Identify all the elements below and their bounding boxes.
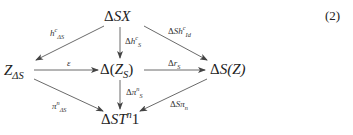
label-left-center: ε xyxy=(67,59,71,68)
node-center: Δ(ZS) xyxy=(100,62,133,77)
node-right: ΔS(Z) xyxy=(210,62,246,77)
label-left-bottom: πnΔS xyxy=(52,102,67,111)
node-top: ΔSX xyxy=(104,9,130,24)
equation-number: (2) xyxy=(325,8,340,24)
label-center-right: ΔrS xyxy=(168,59,180,68)
arrow-top-left xyxy=(36,26,104,60)
node-left: ZΔS xyxy=(4,63,24,78)
arrow-left-bottom xyxy=(34,79,103,111)
label-right-bottom: ΔSπn xyxy=(170,100,188,109)
label-top-right: ΔShcId xyxy=(168,27,191,36)
label-center-bottom: ΔπnS xyxy=(126,88,143,97)
label-top-left: hcΔS xyxy=(50,29,64,38)
node-bottom: ΔSTn1 xyxy=(101,112,139,127)
label-top-center: ΔhcS xyxy=(125,37,141,46)
